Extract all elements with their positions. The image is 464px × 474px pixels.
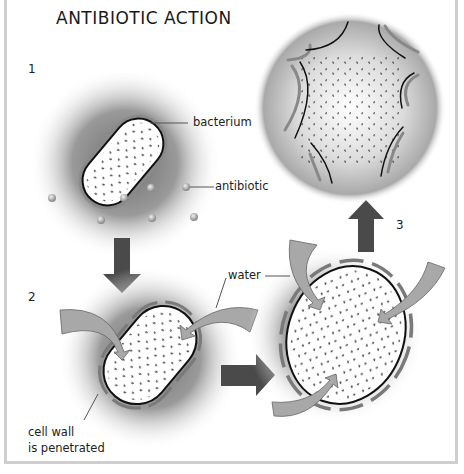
diagram-graphics xyxy=(0,0,464,474)
label-cell-wall: cell wall xyxy=(28,425,74,439)
label-antibiotic: antibiotic xyxy=(215,179,269,193)
step-3-number: 3 xyxy=(396,218,404,232)
step-1-number: 1 xyxy=(28,62,36,76)
step-2-number: 2 xyxy=(28,290,36,304)
label-is-penetrated: is penetrated xyxy=(28,441,105,455)
diagram-title: ANTIBIOTIC ACTION xyxy=(56,8,232,28)
label-water: water xyxy=(228,268,261,282)
label-bacterium: bacterium xyxy=(193,115,252,129)
diagram-frame: ANTIBIOTIC ACTION 1 2 3 bacterium antibi… xyxy=(0,0,464,474)
